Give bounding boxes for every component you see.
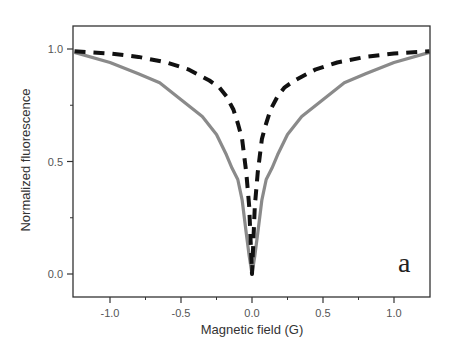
x-tick-label: 0.0 [244, 307, 259, 319]
y-tick-label: 0.0 [48, 268, 63, 280]
series-layer [75, 51, 430, 274]
axis-ticks: -1.0-0.50.00.51.00.00.51.0 [48, 43, 402, 319]
x-axis-label: Magnetic field (G) [201, 322, 304, 337]
x-tick-label: -1.0 [101, 307, 120, 319]
y-axis-label: Normalized fluorescence [18, 88, 33, 231]
x-tick-label: 1.0 [386, 307, 401, 319]
panel-label: a [398, 247, 411, 278]
y-tick-label: 0.5 [48, 156, 63, 168]
y-tick-label: 1.0 [48, 43, 63, 55]
dashed-series-line [75, 51, 430, 274]
x-tick-label: 0.5 [315, 307, 330, 319]
chart: -1.0-0.50.00.51.00.00.51.0 Magnetic fiel… [0, 0, 455, 363]
x-tick-label: -0.5 [172, 307, 191, 319]
